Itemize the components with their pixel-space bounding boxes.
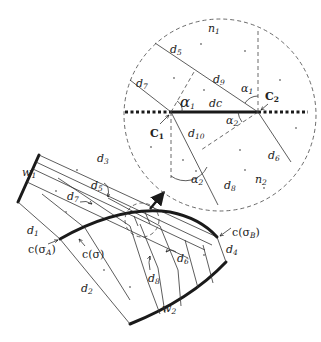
label-alpha1-c2: α1 [241, 82, 253, 96]
marker-dot [195, 170, 197, 172]
inset-magnified: n1 d5 d9 d7 d10 d6 d8 n2 dc α1 α1 α2 α2 … [124, 19, 316, 211]
marker-dot [203, 89, 205, 91]
label-d3: d3 [97, 152, 109, 166]
label-d8: d8 [148, 272, 160, 286]
marker-dot [244, 169, 246, 171]
label-d9: d9 [213, 73, 225, 87]
marker-dot [129, 286, 131, 288]
label-d2: d2 [81, 282, 93, 296]
angle-arc-alpha1-c2 [245, 96, 258, 103]
label-d6: d6 [177, 252, 189, 266]
inset-line-d10-d8 [171, 112, 218, 205]
label-inset-d8: d8 [224, 179, 236, 193]
arrow-d8 [149, 256, 150, 270]
marker-dot [295, 127, 297, 129]
marker-dot [279, 79, 281, 81]
arrow-C2 [261, 104, 268, 110]
label-alpha1-c1: α1 [180, 93, 195, 111]
label-d7: d7 [67, 190, 79, 204]
marker-dot [244, 50, 246, 52]
marker-dot [203, 254, 205, 256]
arrow-c-sigmaB [220, 228, 231, 236]
main-channel: w1 w2 d3 d5 d7 d1 d2 d8 d6 d4 c(σA) c(σ)… [18, 152, 260, 324]
label-alpha2-c2: α2 [226, 114, 238, 128]
diagram-canvas: w1 w2 d3 d5 d7 d1 d2 d8 d6 d4 c(σA) c(σ)… [0, 0, 321, 342]
inset-circle [124, 19, 316, 211]
label-d1: d1 [27, 224, 39, 238]
label-c-sigma: c(σ) [82, 248, 104, 261]
marker-dot [182, 159, 184, 161]
label-c-sigmaA: c(σA) [28, 243, 56, 257]
label-n1: n1 [208, 22, 220, 36]
label-C2: C2 [265, 90, 279, 104]
label-d4: d4 [226, 243, 238, 257]
line-d1 [18, 202, 60, 239]
marker-dot [150, 146, 152, 148]
marker-dot [76, 169, 78, 171]
label-d10: d10 [188, 127, 205, 141]
label-inset-d7: d7 [136, 77, 148, 91]
label-dc: dc [209, 97, 222, 110]
label-C1: C1 [150, 127, 164, 141]
marker-dot [103, 269, 105, 271]
arrow-d7 [80, 201, 92, 204]
magnify-arrow [150, 192, 164, 209]
marker-dot [55, 190, 57, 192]
label-d5: d5 [91, 179, 103, 193]
marker-dot [239, 149, 241, 151]
marker-dot [173, 77, 175, 79]
arrow-c-sigma [79, 239, 85, 246]
marker-dot [200, 43, 202, 45]
streamline-1 [36, 162, 212, 245]
marker-dot [263, 187, 265, 189]
label-alpha2-bottom: α2 [191, 173, 203, 187]
label-n2: n2 [255, 173, 267, 187]
arrow-C1 [160, 115, 169, 124]
label-c-sigmaB: c(σB) [232, 226, 260, 240]
marker-dot [65, 211, 67, 213]
label-inset-d6: d6 [268, 149, 280, 163]
line-d4 [217, 237, 226, 262]
label-inset-d5: d5 [170, 43, 182, 57]
